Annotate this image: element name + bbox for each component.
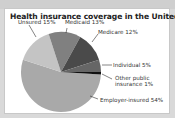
label-unsured: Unsured 15% [18, 19, 55, 26]
label-employer-insured: Employer-insured 54% [100, 97, 163, 104]
label-individual: Individual 5% [113, 62, 151, 69]
label-medicare: Medicare 12% [98, 29, 138, 36]
label-other-public-line2: insurance 1% [115, 81, 153, 88]
label-medicaid: Medicaid 13% [65, 19, 104, 26]
chart-card: Health insurance coverage in the United … [4, 8, 170, 114]
